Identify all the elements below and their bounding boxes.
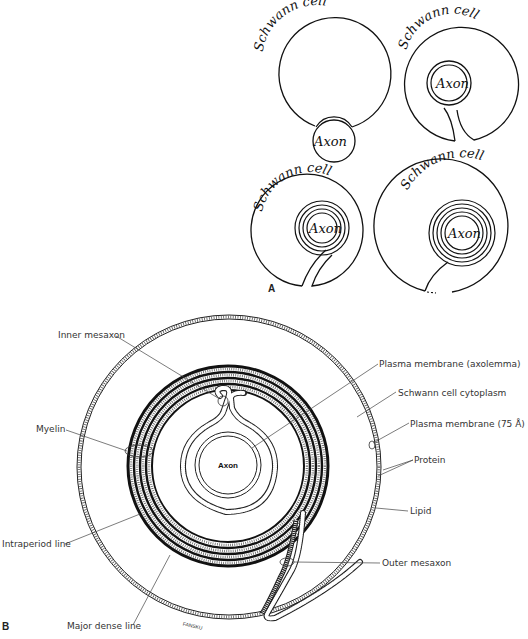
label-major-dense-line: Major dense line: [67, 621, 142, 631]
schwann-cell-label: Schwann cell: [397, 145, 486, 192]
label-intraperiod-line: Intraperiod line: [2, 539, 71, 549]
panel-a-letter: A: [268, 283, 275, 294]
axon-label: Axon: [435, 76, 469, 91]
label-inner-mesaxon: Inner mesaxon: [58, 330, 125, 340]
panel-a: Schwann cell Axon Schwann cell Axon Schw…: [250, 0, 518, 294]
label-protein: Protein: [414, 455, 446, 465]
axon: Axon: [195, 432, 261, 498]
stage-4: Schwann cell Axon: [374, 145, 508, 293]
schwann-cell-label: Schwann cell: [251, 0, 328, 53]
schwann-cell-label: Schwann cell: [395, 2, 482, 51]
panel-b: Axon Inner mesaxon: [2, 315, 525, 632]
label-schwann-cytoplasm: Schwann cell cytoplasm: [398, 388, 506, 398]
label-lipid: Lipid: [410, 506, 431, 516]
stage-2: Schwann cell Axon: [395, 2, 519, 141]
axon-label: Axon: [447, 226, 481, 241]
label-plasma-membrane-axolemma: Plasma membrane (axolemma): [379, 359, 521, 369]
label-myelin: Myelin: [36, 424, 65, 434]
axon-label: Axon: [218, 461, 238, 470]
label-plasma-membrane-75: Plasma membrane (75 Å): [410, 418, 525, 429]
panel-b-letter: B: [2, 621, 9, 632]
outer-mesaxon: [262, 513, 360, 618]
stage-3: Schwann cell Axon: [250, 160, 363, 286]
axon-label: Axon: [308, 221, 342, 236]
stage-1: Schwann cell Axon: [251, 0, 391, 162]
myelination-diagram: Schwann cell Axon Schwann cell Axon Schw…: [0, 0, 528, 639]
axon-label: Axon: [313, 134, 347, 149]
label-outer-mesaxon: Outer mesaxon: [382, 558, 451, 568]
artist-signature: FANSKU: [182, 621, 203, 631]
